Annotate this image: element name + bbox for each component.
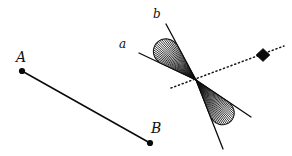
segment-ab-group <box>19 68 153 146</box>
segment-ab-line <box>22 71 150 143</box>
point-b-label: B <box>151 121 161 135</box>
figure-canvas <box>0 0 292 156</box>
ray-b-label: b <box>153 8 161 20</box>
point-a-label: A <box>16 50 26 64</box>
geometry-figure: A B a b <box>0 0 292 156</box>
point-b-dot <box>147 140 153 146</box>
diamond-marker-icon <box>256 49 270 62</box>
ray-a-label: a <box>119 38 126 50</box>
point-a-dot <box>19 68 25 74</box>
upper-angle-sector <box>153 39 196 80</box>
